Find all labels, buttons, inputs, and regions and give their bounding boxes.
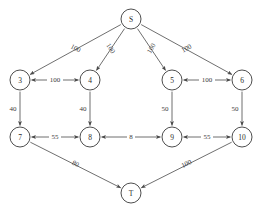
node-4[interactable]: 4: [80, 70, 100, 90]
edge-label-9-10: 55: [201, 133, 213, 142]
edge-label-3-7: 40: [10, 105, 18, 113]
edge-weight-label: 55: [204, 133, 212, 141]
edge-weight-label: 55: [52, 133, 60, 141]
node-label-10: 10: [238, 133, 246, 142]
edge-weight-label: 100: [104, 42, 117, 56]
node-label-5: 5: [170, 76, 174, 85]
edge-weight-label: 100: [50, 76, 61, 84]
edge-label-10-T: 100: [180, 158, 193, 170]
node-label-T: T: [129, 189, 134, 198]
edge-weight-label: 100: [202, 76, 213, 84]
nodes-layer: S345678910T: [10, 9, 252, 203]
edge-weight-label: 40: [10, 105, 18, 113]
node-T[interactable]: T: [121, 183, 141, 203]
edge-weight-label: 8: [129, 133, 133, 141]
edge-label-3-4: 100: [47, 76, 63, 85]
edge-label-S-6: 100: [180, 42, 193, 54]
edge-label-5-9: 50: [162, 105, 170, 113]
edge-weight-label: 100: [180, 158, 193, 170]
edge-weight-label: 100: [180, 42, 193, 54]
node-label-3: 3: [18, 76, 22, 85]
node-5[interactable]: 5: [162, 70, 182, 90]
node-6[interactable]: 6: [232, 70, 252, 90]
network-flow-diagram: 100100100100100100404050505585580100 S34…: [0, 0, 259, 213]
node-8[interactable]: 8: [80, 127, 100, 147]
edge-label-7-8: 55: [49, 133, 61, 142]
node-label-S: S: [129, 15, 133, 24]
edge-label-8-9: 8: [127, 133, 135, 142]
edge-weight-label: 50: [162, 105, 170, 113]
edge-label-S-3: 100: [69, 42, 82, 54]
node-label-6: 6: [240, 76, 244, 85]
edge-label-S-4: 100: [104, 42, 117, 56]
node-3[interactable]: 3: [10, 70, 30, 90]
node-9[interactable]: 9: [162, 127, 182, 147]
edge-weight-label: 80: [71, 159, 81, 169]
edge-labels-layer: 100100100100100100404050505585580100: [10, 42, 240, 170]
edges-layer: [20, 25, 242, 188]
graph-canvas: 100100100100100100404050505585580100 S34…: [0, 0, 259, 213]
node-label-9: 9: [170, 133, 174, 142]
node-label-8: 8: [88, 133, 92, 142]
node-7[interactable]: 7: [10, 127, 30, 147]
node-10[interactable]: 10: [232, 127, 252, 147]
edge-weight-label: 100: [69, 42, 82, 54]
node-S[interactable]: S: [121, 9, 141, 29]
edge-weight-label: 40: [80, 105, 88, 113]
edge-weight-label: 50: [232, 105, 240, 113]
edge-label-4-8: 40: [80, 105, 88, 113]
edge-label-6-10: 50: [232, 105, 240, 113]
edge-label-7-T: 80: [71, 159, 81, 169]
node-label-4: 4: [88, 76, 92, 85]
edge-label-5-6: 100: [199, 76, 215, 85]
node-label-7: 7: [18, 133, 22, 142]
